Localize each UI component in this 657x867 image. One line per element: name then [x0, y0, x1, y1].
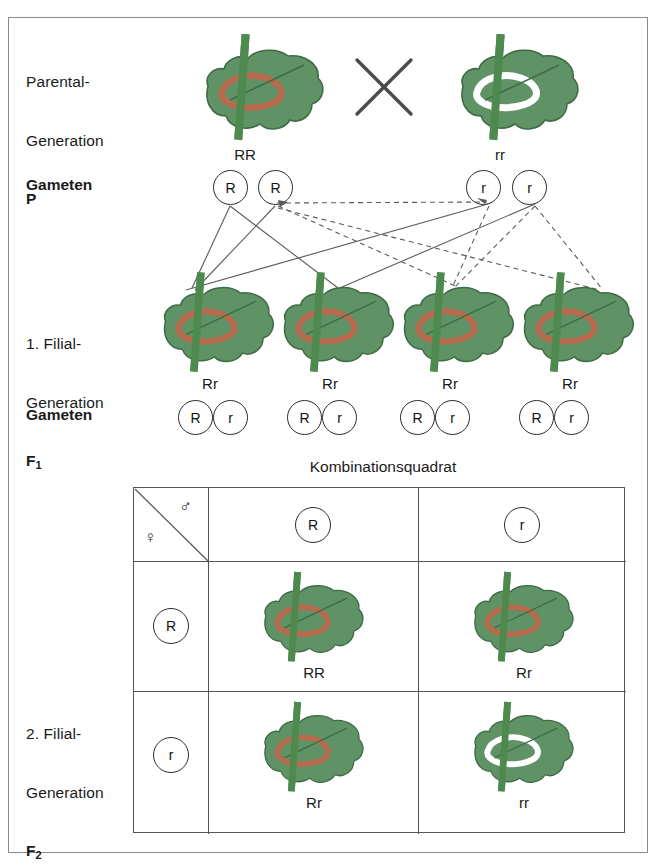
gamete-f1-4-allele-2: r: [554, 400, 589, 435]
punnett-row-header-1: R: [153, 608, 189, 644]
filial2-generation-label: 2. Filial- Generation F2: [26, 685, 104, 867]
genotype-f2-cell-0-0: RR: [279, 664, 349, 681]
gamete-f1-4-allele-1: R: [519, 400, 554, 435]
parental-label-line-1: Parental-: [26, 72, 104, 92]
genotype-f2-cell-0-1: Rr: [489, 664, 559, 681]
genotype-f2-cell-1-1: rr: [489, 794, 559, 811]
gamete-p-allele-1: R: [213, 170, 248, 205]
plant-f2-cell-0-1: [469, 571, 579, 666]
gamete-f1-3-allele-2: r: [435, 400, 470, 435]
genotype-f1-3: Rr: [415, 375, 485, 392]
filial1-label-f1: F1: [26, 451, 104, 473]
gamete-f1-1-allele-1: R: [178, 400, 213, 435]
punnett-square-title: Kombinationsquadrat: [253, 458, 513, 476]
gamete-p-allele-4: r: [512, 170, 547, 205]
male-symbol-icon: ♂: [179, 497, 192, 517]
filial2-label-line-2: Generation: [26, 783, 104, 803]
female-symbol-icon: ♀: [144, 528, 157, 548]
punnett-row-header-2: r: [153, 737, 189, 773]
parental-generation-label: Parental- Generation P: [26, 33, 104, 248]
gamete-p-allele-2: R: [258, 170, 293, 205]
gamete-f1-2-allele-1: R: [287, 400, 322, 435]
gamete-f1-1-allele-2: r: [213, 400, 248, 435]
genotype-f2-cell-1-0: Rr: [279, 794, 349, 811]
filial2-label-line-1: 2. Filial-: [26, 724, 104, 744]
genotype-parental-2: rr: [450, 146, 550, 163]
filial1-generation-label: 1. Filial- Generation F1: [26, 295, 104, 512]
plant-f2-cell-1-1: [469, 701, 579, 796]
cross-symbol: [352, 56, 416, 118]
filial2-label-f2: F2: [26, 841, 104, 863]
parental-label-line-2: Generation: [26, 131, 104, 151]
plant-f2-cell-0-0: [259, 571, 369, 666]
punnett-square: ♂ ♀ R r R r RR: [133, 487, 625, 833]
gameten-p-label: Gameten: [26, 176, 92, 194]
genetics-diagram: Parental- Generation P RR rr Gamete: [0, 0, 657, 867]
gamete-f1-3-allele-1: R: [400, 400, 435, 435]
punnett-col-header-2: r: [504, 507, 540, 543]
punnett-corner-diagonal: [134, 488, 209, 562]
punnett-row-divider-2: [134, 691, 626, 692]
gamete-p-allele-3: r: [466, 170, 501, 205]
genotype-f1-2: Rr: [295, 375, 365, 392]
plant-f2-cell-1-0: [259, 701, 369, 796]
genotype-f1-1: Rr: [175, 375, 245, 392]
gamete-f1-2-allele-2: r: [322, 400, 357, 435]
filial1-label-line-1: 1. Filial-: [26, 334, 104, 354]
punnett-col-divider-2: [418, 488, 419, 834]
genotype-parental-1: RR: [195, 146, 295, 163]
genotype-f1-4: Rr: [535, 375, 605, 392]
gameten-f1-label: Gameten: [26, 406, 92, 424]
punnett-col-header-1: R: [295, 507, 331, 543]
